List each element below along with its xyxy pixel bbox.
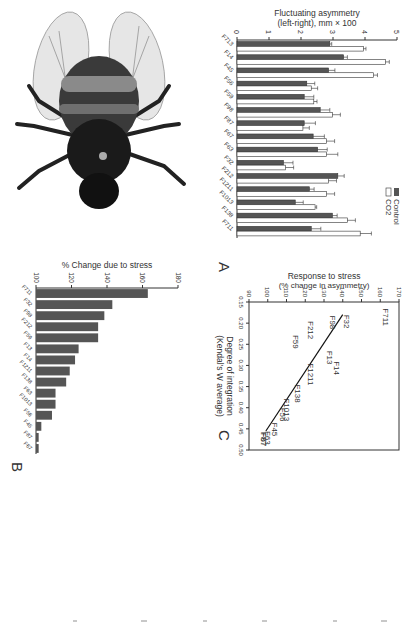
point-label: F98 [328, 316, 337, 330]
x-tick-label: F14 [223, 49, 235, 61]
x-axis-subtitle: (Kendal's W average) [215, 335, 225, 417]
x-tick-label: F67 [223, 128, 235, 140]
bar [36, 422, 41, 431]
legend-swatch-co2 [386, 188, 391, 196]
x-tick-label: F59 [23, 330, 34, 341]
figure-page: 012345F713F14F45F56F59F98F87F67F63F32F21… [0, 0, 411, 640]
bar [36, 344, 79, 353]
bar-co2 [237, 192, 327, 197]
point-label: F138 [293, 384, 302, 403]
y-axis-subtitle: (% change in asymmetry) [279, 281, 370, 290]
bar [36, 289, 148, 298]
bar [36, 356, 75, 365]
x-tick-label: 0.30 [238, 360, 244, 372]
bar-co2 [237, 60, 385, 65]
bar [36, 322, 98, 331]
y-tick-label: 90 [246, 290, 252, 297]
bar-control [237, 42, 330, 47]
x-axis-title: Degree of integration [225, 336, 235, 416]
bar [36, 433, 39, 442]
chart-b-bar-chart: 100120140160180F711F32F98F212F59F13F14F1… [6, 258, 186, 458]
bar [36, 378, 66, 387]
bar-control [237, 200, 295, 205]
x-tick-label: 0.25 [238, 338, 244, 350]
bar [36, 311, 104, 320]
point-label: F711 [381, 308, 390, 326]
x-tick-label: F1211 [19, 359, 34, 374]
y-tick-label: 140 [104, 272, 111, 283]
x-tick-label: F138 [221, 205, 235, 219]
faint-caption-marks [7, 470, 407, 630]
x-tick-label: 0.50 [238, 444, 244, 456]
x-tick-label: F56 [23, 407, 34, 418]
y-tick-label: 2 [297, 30, 304, 34]
y-axis-title: Response to stress [288, 272, 361, 281]
point-label: F59 [291, 335, 300, 349]
bar [36, 300, 112, 309]
bar-co2 [237, 86, 311, 91]
bar-control [237, 187, 309, 192]
x-tick-label: F45 [23, 418, 34, 429]
bar-co2 [237, 126, 303, 131]
bar-co2 [237, 112, 332, 117]
x-tick-label: F711 [221, 218, 235, 232]
bar-control [237, 94, 304, 99]
bar-control [237, 134, 313, 139]
y-tick-label: 120 [68, 272, 75, 283]
x-tick-label: F711 [21, 283, 34, 296]
panel-a: 012345F713F14F45F56F59F98F87F67F63F32F21… [202, 6, 407, 246]
bar-control [237, 174, 338, 179]
legend-label-control: Control [392, 199, 401, 225]
x-tick-label: F56 [223, 75, 235, 87]
x-tick-label: F713 [221, 33, 235, 47]
y-tick-label: 4 [361, 30, 368, 34]
bee-illustration [9, 6, 189, 246]
bar-control [237, 55, 344, 60]
x-tick-label: 0.15 [238, 296, 244, 308]
bar [36, 333, 98, 342]
point-label: F14 [332, 361, 341, 375]
bar-co2 [237, 178, 329, 183]
x-tick-label: F1013 [18, 392, 33, 407]
legend-label-co2: CO2 [384, 199, 393, 216]
point-label: F32 [342, 315, 351, 329]
y-axis-subtitle: (left-right), mm × 100 [277, 18, 356, 28]
x-tick-label: F13 [23, 341, 34, 352]
y-axis-title: Fluctuating asymmetry [274, 8, 360, 18]
bar-co2 [237, 218, 347, 223]
x-tick-label: F98 [223, 101, 235, 113]
x-tick-label: F59 [223, 88, 235, 100]
x-tick-label: 0.35 [238, 381, 244, 393]
y-tick-label: 1 [265, 30, 272, 34]
bumblebee-icon [9, 6, 189, 246]
panel-b: 100120140160180F711F32F98F212F59F13F14F1… [6, 258, 186, 458]
y-tick-label: 170 [396, 287, 402, 298]
point-label: F67 [259, 433, 268, 447]
y-tick-label: 160 [139, 272, 146, 283]
x-tick-label: F1013 [218, 189, 235, 206]
y-axis-title: % Change due to stress [62, 260, 153, 270]
bar [36, 411, 52, 420]
y-tick-label: 100 [33, 272, 40, 283]
point-label: F1211 [306, 363, 315, 386]
y-tick-label: 0 [233, 30, 240, 34]
bar-co2 [237, 152, 327, 157]
bar [36, 367, 70, 376]
x-tick-label: 0.40 [238, 402, 244, 414]
bar [36, 400, 56, 409]
y-tick-label: 180 [175, 272, 182, 283]
legend-swatch-control [394, 188, 399, 196]
bar-co2 [237, 231, 360, 236]
bar-control [237, 68, 329, 73]
bar-control [237, 147, 318, 152]
chart-a-bar-chart: 012345F713F14F45F56F59F98F87F67F63F32F21… [202, 6, 407, 246]
bar-co2 [237, 139, 327, 144]
bar-control [237, 226, 311, 231]
bar [36, 389, 56, 398]
bar-control [237, 213, 332, 218]
y-tick-label: 100 [264, 287, 270, 298]
x-tick-label: F212 [20, 316, 33, 329]
bar-co2 [237, 205, 315, 210]
bar-co2 [237, 165, 286, 170]
point-label: F212 [306, 321, 315, 340]
